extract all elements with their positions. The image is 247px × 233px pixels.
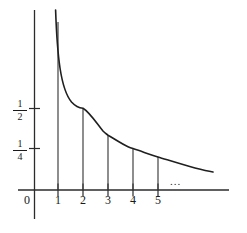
continuation-ellipsis: ... (170, 176, 181, 187)
harmonic-series-figure: 0 1 2 3 4 5 1 2 1 4 ... (0, 0, 247, 233)
x-axis-label-4: 4 (126, 194, 140, 206)
one-quarter-numerator: 1 (12, 139, 28, 150)
one-half-denominator: 2 (12, 111, 28, 122)
one-half-numerator: 1 (12, 99, 28, 110)
y-axis-label-one-quarter: 1 4 (12, 139, 28, 162)
x-axis-label-0: 0 (20, 194, 34, 206)
x-axis-label-5: 5 (151, 194, 165, 206)
y-axis-label-one-half: 1 2 (12, 99, 28, 122)
reciprocal-curve (56, 10, 213, 172)
one-quarter-denominator: 4 (12, 151, 28, 162)
plot-canvas (0, 0, 247, 233)
x-axis-label-1: 1 (51, 194, 65, 206)
x-axis-label-2: 2 (76, 194, 90, 206)
x-axis-label-3: 3 (101, 194, 115, 206)
